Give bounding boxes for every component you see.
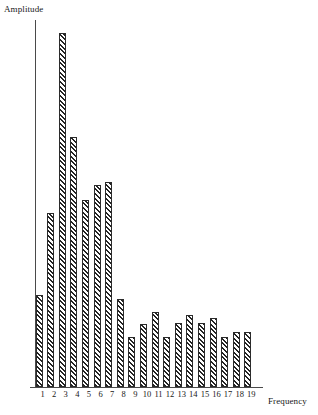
plot-area bbox=[0, 0, 318, 415]
bar bbox=[221, 337, 228, 387]
bar bbox=[244, 332, 251, 387]
bar bbox=[59, 33, 66, 387]
bar bbox=[82, 200, 89, 387]
bar bbox=[163, 337, 170, 387]
bar bbox=[70, 137, 77, 387]
bar-chart: Amplitude Frequency 12345678910111213141… bbox=[0, 0, 318, 415]
bar bbox=[128, 337, 135, 387]
bar bbox=[233, 332, 240, 387]
bar bbox=[117, 299, 124, 387]
bar bbox=[152, 312, 159, 387]
bar bbox=[210, 318, 217, 387]
bar bbox=[94, 185, 101, 387]
bar bbox=[175, 323, 182, 387]
bar bbox=[47, 213, 54, 387]
bar bbox=[186, 315, 193, 387]
bar bbox=[140, 324, 147, 387]
bar bbox=[105, 182, 112, 387]
bar bbox=[198, 323, 205, 387]
x-tick-label: 19 bbox=[244, 389, 258, 399]
bar bbox=[36, 295, 43, 387]
x-axis-label: Frequency bbox=[268, 396, 307, 406]
